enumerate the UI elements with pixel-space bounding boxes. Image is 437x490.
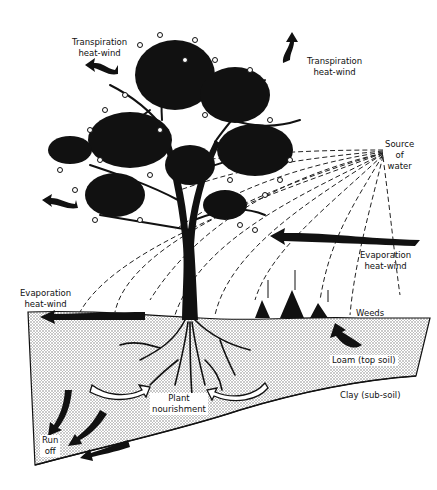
diagram: Transpiration heat-wind Transpiration he…: [0, 0, 437, 490]
label-line: of: [385, 150, 414, 161]
label-plant-nourishment: Plant nourishment: [150, 393, 208, 415]
label-clay: Clay (sub-soil): [340, 390, 401, 401]
label-line: Transpiration: [307, 56, 362, 67]
label-line: Evaporation: [20, 288, 71, 299]
label-loam: Loam (top soil): [330, 355, 398, 366]
weeds-icon: [255, 270, 328, 318]
label-line: heat-wind: [360, 261, 411, 272]
label-line: Source: [385, 139, 414, 150]
label-line: Run: [42, 435, 58, 446]
label-line: water: [385, 161, 414, 172]
label-source-of-water: Source of water: [385, 139, 414, 172]
label-line: off: [42, 446, 58, 457]
label-line: nourishment: [152, 404, 206, 415]
label-transpiration-left: Transpiration heat-wind: [72, 37, 127, 59]
water-rays-icon: [80, 150, 400, 315]
label-line: heat-wind: [20, 299, 71, 310]
soil-loam: [28, 311, 430, 465]
label-weeds: Weeds: [356, 308, 384, 319]
tree-icon: [48, 33, 300, 321]
label-evaporation-right: Evaporation heat-wind: [360, 250, 411, 272]
label-line: Evaporation: [360, 250, 411, 261]
label-transpiration-right: Transpiration heat-wind: [307, 56, 362, 78]
label-line: Plant: [152, 393, 206, 404]
label-run-off: Run off: [40, 435, 60, 457]
label-evaporation-left: Evaporation heat-wind: [20, 288, 71, 310]
label-line: heat-wind: [307, 67, 362, 78]
label-line: Transpiration: [72, 37, 127, 48]
label-line: heat-wind: [72, 48, 127, 59]
